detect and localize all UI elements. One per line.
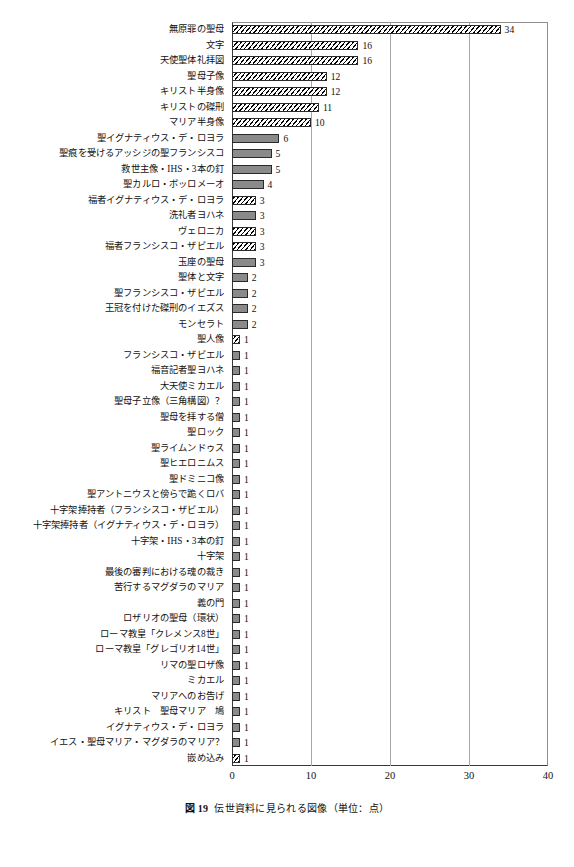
bar-value-label: 1 — [244, 410, 249, 426]
bar-value-label: 16 — [362, 53, 372, 69]
bar-row: 聖フランシスコ・ザビエル2 — [0, 286, 574, 302]
bar-value-label: 16 — [362, 38, 372, 54]
x-tick-label-40: 40 — [543, 770, 554, 781]
category-label: フランシスコ・ザビエル — [0, 348, 228, 364]
category-label: マリアへのお告げ — [0, 689, 228, 705]
bar-value-label: 1 — [244, 441, 249, 457]
bar-value-label: 2 — [252, 270, 257, 286]
bar — [232, 754, 240, 763]
category-label: ローマ教皇「グレゴリオ14世」 — [0, 642, 228, 658]
bar-value-label: 1 — [244, 658, 249, 674]
bar-area: 1 — [232, 410, 548, 426]
bar — [232, 273, 248, 282]
bar-area: 5 — [232, 146, 548, 162]
bar — [232, 552, 240, 561]
bar-area: 1 — [232, 425, 548, 441]
bar-row: キリスト 聖母マリア 鳩1 — [0, 704, 574, 720]
bar-value-label: 1 — [244, 549, 249, 565]
bar-area: 1 — [232, 720, 548, 736]
bar-area: 2 — [232, 317, 548, 333]
bar-value-label: 11 — [323, 100, 332, 116]
bar — [232, 196, 256, 205]
bar — [232, 707, 240, 716]
bar-area: 5 — [232, 162, 548, 178]
bar-value-label: 12 — [331, 69, 341, 85]
bar-value-label: 12 — [331, 84, 341, 100]
bar — [232, 459, 240, 468]
bar-row: ミカエル1 — [0, 673, 574, 689]
bar-area: 6 — [232, 131, 548, 147]
bar — [232, 211, 256, 220]
category-label: 嵌め込み — [0, 751, 228, 767]
bar-area: 1 — [232, 658, 548, 674]
bar-area: 1 — [232, 332, 548, 348]
bar-area: 1 — [232, 673, 548, 689]
category-label: 聖母を拝する僧 — [0, 410, 228, 426]
category-label: ロザリオの聖母（環状） — [0, 611, 228, 627]
bar — [232, 537, 240, 546]
bar-value-label: 3 — [260, 193, 265, 209]
category-label: 聖ドミニコ像 — [0, 472, 228, 488]
x-tick-label-30: 30 — [464, 770, 475, 781]
bar — [232, 382, 240, 391]
bar — [232, 490, 240, 499]
bar — [232, 506, 240, 515]
bar-row: 聖母を拝する僧1 — [0, 410, 574, 426]
category-label: 聖カルロ・ボッロメーオ — [0, 177, 228, 193]
bar-row: 福者イグナティウス・デ・ロヨラ3 — [0, 193, 574, 209]
category-label: 福者フランシスコ・ザビエル — [0, 239, 228, 255]
bar-area: 11 — [232, 100, 548, 116]
category-label: 聖母子立像（三角構図）？ — [0, 394, 228, 410]
bar — [232, 103, 319, 112]
bar — [232, 676, 240, 685]
bar-row: 文字16 — [0, 38, 574, 54]
bar-area: 2 — [232, 286, 548, 302]
bar-row: ローマ教皇「グレゴリオ14世」1 — [0, 642, 574, 658]
category-label: 最後の審判における魂の裁き — [0, 565, 228, 581]
bar-row: 十字架捧持者（イグナティウス・デ・ロヨラ）1 — [0, 518, 574, 534]
bar — [232, 521, 240, 530]
bar-row: リマの聖ロザ像1 — [0, 658, 574, 674]
bar-row: ヴェロニカ3 — [0, 224, 574, 240]
bar-row: フランシスコ・ザビエル1 — [0, 348, 574, 364]
bar — [232, 41, 358, 50]
bar-row: キリスト半身像12 — [0, 84, 574, 100]
bar — [232, 25, 501, 34]
category-label: 十字架捧持者（フランシスコ・ザビエル） — [0, 503, 228, 519]
bar — [232, 583, 240, 592]
bar-value-label: 1 — [244, 596, 249, 612]
bar — [232, 351, 240, 360]
bar-area: 1 — [232, 441, 548, 457]
bar-area: 1 — [232, 518, 548, 534]
bar-row: マリア半身像10 — [0, 115, 574, 131]
bar-value-label: 5 — [276, 146, 281, 162]
bar-row: マリアへのお告げ1 — [0, 689, 574, 705]
bar-area: 3 — [232, 208, 548, 224]
category-label: モンセラト — [0, 317, 228, 333]
bar-area: 1 — [232, 363, 548, 379]
bar-value-label: 1 — [244, 565, 249, 581]
bar — [232, 413, 240, 422]
x-axis-tick-labels: 010203040 — [232, 770, 548, 788]
bar — [232, 258, 256, 267]
bar-value-label: 1 — [244, 720, 249, 736]
bar-row: ロザリオの聖母（環状）1 — [0, 611, 574, 627]
bar-row: 苦行するマグダラのマリア1 — [0, 580, 574, 596]
bar-area: 2 — [232, 301, 548, 317]
bar-value-label: 1 — [244, 673, 249, 689]
category-label: 聖アントニウスと傍らで跪くロバ — [0, 487, 228, 503]
bar — [232, 692, 240, 701]
bar — [232, 661, 240, 670]
bar-row: モンセラト2 — [0, 317, 574, 333]
bar-value-label: 3 — [260, 208, 265, 224]
bar — [232, 614, 240, 623]
category-label: 苦行するマグダラのマリア — [0, 580, 228, 596]
bar-row: 聖ライムンドゥス1 — [0, 441, 574, 457]
bar-row: 大天使ミカエル1 — [0, 379, 574, 395]
category-label: 聖ロック — [0, 425, 228, 441]
category-label: 聖人像 — [0, 332, 228, 348]
bar — [232, 630, 240, 639]
bar-area: 3 — [232, 193, 548, 209]
bar-row: 嵌め込み1 — [0, 751, 574, 767]
bar-area: 1 — [232, 642, 548, 658]
